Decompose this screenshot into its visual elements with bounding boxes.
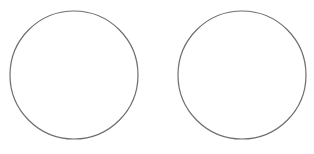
right-circle xyxy=(178,11,306,139)
diagram-canvas xyxy=(0,0,314,154)
left-circle xyxy=(10,11,138,139)
